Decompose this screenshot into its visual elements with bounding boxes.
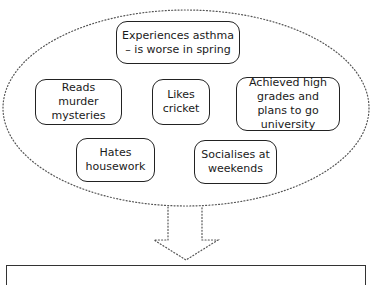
node-high-grades: Achieved high grades and plans to go uni… xyxy=(236,77,340,131)
dotted-down-arrow-icon xyxy=(154,207,218,260)
node-label: Achieved high grades and plans to go uni… xyxy=(241,76,335,132)
node-label: Likes cricket xyxy=(157,88,205,116)
node-label: Experiences asthma – is worse in spring xyxy=(121,29,235,57)
node-socialises: Socialises at weekends xyxy=(194,140,277,184)
node-label: Hates housework xyxy=(81,146,150,174)
node-reads-murder-mysteries: Reads murder mysteries xyxy=(35,79,122,125)
node-hates-housework: Hates housework xyxy=(76,138,155,182)
node-label: Socialises at weekends xyxy=(199,148,272,176)
output-panel xyxy=(6,265,366,285)
node-asthma: Experiences asthma – is worse in spring xyxy=(116,21,240,64)
node-likes-cricket: Likes cricket xyxy=(152,79,210,125)
node-label: Reads murder mysteries xyxy=(40,81,117,123)
